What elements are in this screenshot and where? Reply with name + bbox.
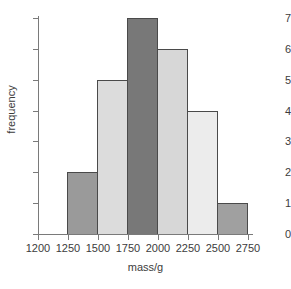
- x-tick-1200: [38, 235, 39, 240]
- y-tick-label-3: 3: [265, 136, 291, 147]
- y-tick-6: [33, 49, 38, 50]
- y-tick-label-6: 6: [265, 44, 291, 55]
- y-tick-3: [33, 141, 38, 142]
- x-tick-2500: [218, 235, 219, 240]
- y-tick-label-5: 5: [265, 75, 291, 86]
- clipped-text-below-figure: [0, 284, 291, 289]
- bar-1500-1750: [97, 80, 128, 235]
- bar-1250-1500: [67, 172, 98, 235]
- x-tick-1250: [68, 235, 69, 240]
- x-tick-2250: [188, 235, 189, 240]
- bar-2000-2250: [157, 49, 188, 235]
- x-tick-label-2750: 2750: [228, 242, 268, 254]
- bar-1750-2000: [127, 18, 158, 235]
- x-axis-line: [38, 234, 253, 235]
- y-tick-5: [33, 80, 38, 81]
- y-tick-label-0: 0: [265, 229, 291, 240]
- histogram-figure: 0 1 2 3 4 5 6 7 1200 1250 1500 1750 2000…: [0, 0, 291, 289]
- y-tick-label-1: 1: [265, 198, 291, 209]
- x-tick-2000: [158, 235, 159, 240]
- y-tick-label-7: 7: [265, 13, 291, 24]
- x-axis-title: mass/g: [38, 261, 253, 273]
- x-tick-2750: [248, 235, 249, 240]
- y-axis-line: [38, 16, 39, 235]
- x-tick-1750: [128, 235, 129, 240]
- x-tick-1500: [98, 235, 99, 240]
- y-tick-label-4: 4: [265, 106, 291, 117]
- y-tick-4: [33, 111, 38, 112]
- y-tick-label-2: 2: [265, 167, 291, 178]
- y-tick-1: [33, 203, 38, 204]
- y-tick-2: [33, 172, 38, 173]
- bar-2500-2750: [217, 203, 248, 235]
- y-axis-title: frequency: [6, 75, 17, 145]
- y-tick-7: [33, 18, 38, 19]
- plot-area: 0 1 2 3 4 5 6 7 1200 1250 1500 1750 2000…: [0, 0, 291, 289]
- bar-2250-2500: [187, 111, 218, 235]
